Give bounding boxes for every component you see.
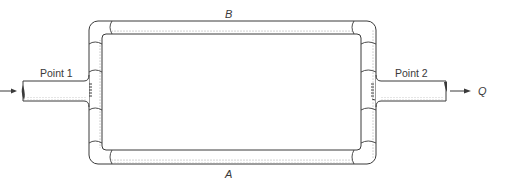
branch-b-label: B bbox=[225, 8, 232, 20]
pipe-network-diagram: Point 1 Point 2 B A Q bbox=[0, 0, 505, 187]
flow-rate-label: Q bbox=[478, 85, 487, 97]
pipe-loop bbox=[89, 21, 376, 164]
right-pipe-shade bbox=[371, 30, 375, 158]
inlet-pipe bbox=[22, 75, 92, 107]
pipe-b-shade bbox=[111, 30, 354, 33]
left-pipe-shade bbox=[98, 40, 101, 148]
inflow-arrow-icon bbox=[0, 89, 17, 94]
outflow-arrow-icon bbox=[450, 89, 471, 94]
pipe-a-shade bbox=[111, 159, 354, 163]
branch-a-label: A bbox=[224, 168, 232, 180]
point-2-label: Point 2 bbox=[395, 67, 428, 79]
outlet-pipe bbox=[371, 75, 447, 107]
point-1-label: Point 1 bbox=[40, 67, 73, 79]
